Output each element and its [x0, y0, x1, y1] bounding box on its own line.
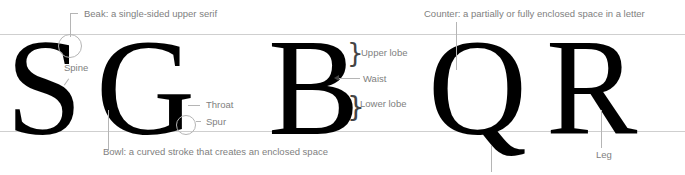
anatomy-diagram: S G B Q R Beak: a single-sided upper ser…	[0, 0, 685, 175]
counter-leader	[456, 22, 457, 70]
bowl-label: Bowl: a curved stroke that creates an en…	[103, 147, 328, 157]
lower-lobe-label: Lower lobe	[360, 99, 406, 109]
waist-arrow-line	[338, 78, 360, 79]
counter-label: Counter: a partially or fully enclosed s…	[424, 9, 645, 19]
waist-label: Waist	[363, 74, 386, 84]
beak-leader-horizontal	[70, 13, 78, 14]
spur-leader	[196, 121, 201, 122]
upper-lobe-label: Upper lobe	[361, 48, 407, 58]
leg-leader	[601, 110, 602, 148]
throat-leader	[188, 105, 200, 106]
beak-label: Beak: a single-sided upper serif	[84, 9, 217, 19]
letter-b: B	[268, 20, 359, 157]
q-tail-leader	[491, 145, 492, 172]
waist-arrowhead-icon	[334, 75, 339, 81]
letter-g: G	[96, 20, 195, 157]
throat-label: Throat	[206, 100, 233, 110]
spur-circle	[176, 115, 196, 135]
beak-circle	[58, 34, 82, 58]
bowl-leader	[108, 110, 109, 150]
spine-label: Spine	[64, 63, 88, 73]
letter-r: R	[546, 20, 637, 157]
leg-label: Leg	[596, 150, 612, 160]
letter-q: Q	[428, 20, 527, 157]
spur-label: Spur	[206, 117, 226, 127]
